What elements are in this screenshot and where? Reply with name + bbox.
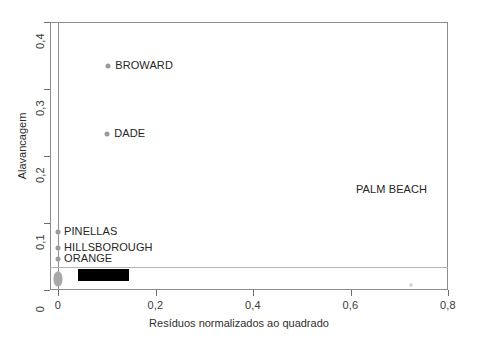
x-axis-tick [448, 290, 449, 296]
horizontal-reference-line [50, 267, 448, 268]
redacted-label-bar [78, 269, 129, 281]
x-axis-tick [58, 290, 59, 296]
scatter-plot-screenshot: 00,20,40,60,800,10,20,30,4 BROWARDDADEPA… [0, 0, 478, 342]
data-point-pinellas [56, 230, 61, 235]
x-axis-title: Resíduos normalizados ao quadrado [0, 317, 478, 329]
point-cluster-blob [54, 271, 63, 286]
data-point-hillsborough [56, 246, 61, 251]
y-axis-tick-label: 0,3 [34, 88, 46, 128]
data-point-dade [105, 131, 110, 136]
point-label-pinellas: PINELLAS [64, 225, 117, 237]
y-axis-tick-label: 0,2 [34, 155, 46, 195]
point-label-broward: BROWARD [115, 59, 173, 71]
x-axis-tick-label: 0,2 [126, 299, 186, 311]
x-axis-tick [351, 290, 352, 296]
x-axis-tick [253, 290, 254, 296]
x-axis-tick-label: 0,4 [223, 299, 283, 311]
point-label-orange: ORANGE [64, 252, 112, 264]
x-axis-tick-label: 0,8 [418, 299, 478, 311]
y-axis-title: Alavancagem [16, 86, 28, 206]
point-label-palm-beach: PALM BEACH [356, 183, 427, 195]
data-point-orange [56, 256, 61, 261]
x-axis-tick [156, 290, 157, 296]
point-label-dade: DADE [114, 127, 145, 139]
x-axis-tick-label: 0,6 [321, 299, 381, 311]
y-axis-tick-label: 0,4 [34, 21, 46, 61]
data-point [409, 283, 413, 287]
y-axis-tick-label: 0,1 [34, 222, 46, 262]
data-point-broward [106, 64, 111, 69]
